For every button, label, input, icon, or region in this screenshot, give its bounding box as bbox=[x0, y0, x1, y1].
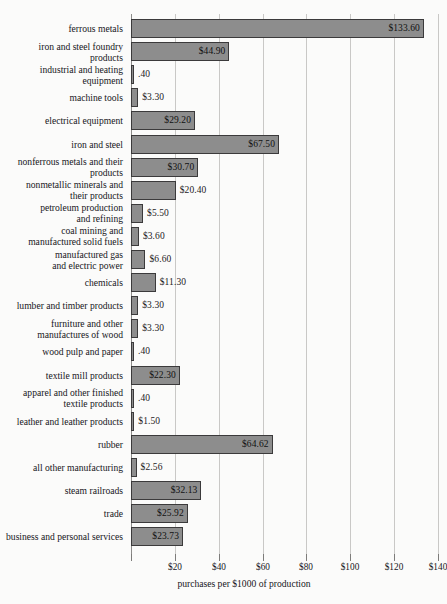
x-axis-tick-label: $140 bbox=[429, 562, 447, 572]
chart-bar-row: $44.90 bbox=[131, 42, 438, 61]
chart-bar-row: $6.60 bbox=[131, 250, 438, 269]
bar-value-label: $32.13 bbox=[131, 481, 201, 500]
bar-value-label: $5.50 bbox=[147, 204, 169, 223]
chart-bar-row: $3.30 bbox=[131, 319, 438, 338]
chart-bar-row: $67.50 bbox=[131, 135, 438, 154]
bar-value-label: $22.30 bbox=[131, 366, 180, 385]
chart-bar-row: $2.56 bbox=[131, 458, 438, 477]
bar-value-label: .40 bbox=[138, 389, 150, 408]
x-axis-tick bbox=[175, 554, 176, 561]
category-label: business and personal services bbox=[0, 531, 123, 542]
bar-value-label: .40 bbox=[138, 65, 150, 84]
bar-value-label: $133.60 bbox=[131, 19, 424, 38]
category-label: nonferrous metals and their products bbox=[0, 156, 123, 178]
bar-value-label: $1.50 bbox=[138, 412, 160, 431]
chart-bar-row: $22.30 bbox=[131, 366, 438, 385]
category-label: coal mining and manufactured solid fuels bbox=[0, 225, 123, 247]
x-axis-tick-label: $80 bbox=[299, 562, 313, 572]
bar-value-label: $44.90 bbox=[131, 42, 229, 61]
category-axis-labels: ferrous metalsiron and steel foundry pro… bbox=[0, 14, 127, 554]
chart-bar-row: $133.60 bbox=[131, 19, 438, 38]
bar-value-label: $3.30 bbox=[142, 296, 164, 315]
category-label: textile mill products bbox=[0, 370, 123, 381]
bar-value-label: $29.20 bbox=[131, 111, 195, 130]
category-label: iron and steel bbox=[0, 139, 123, 150]
chart-bar-row: .40 bbox=[131, 65, 438, 84]
category-label: wood pulp and paper bbox=[0, 346, 123, 357]
category-label: all other manufacturing bbox=[0, 462, 123, 473]
bar bbox=[131, 412, 134, 431]
bar bbox=[131, 458, 137, 477]
chart-bar-row: .40 bbox=[131, 342, 438, 361]
x-axis-tick bbox=[263, 554, 264, 561]
gridline bbox=[438, 14, 439, 554]
category-label: steam railroads bbox=[0, 485, 123, 496]
chart-bar-row: $64.62 bbox=[131, 435, 438, 454]
bar bbox=[131, 342, 134, 361]
bar-value-label: $23.73 bbox=[131, 527, 183, 546]
chart-bar-row: $25.92 bbox=[131, 504, 438, 523]
category-label: furniture and other manufactures of wood bbox=[0, 318, 123, 340]
bar bbox=[131, 273, 156, 292]
category-label: chemicals bbox=[0, 277, 123, 288]
chart-bar-row: $32.13 bbox=[131, 481, 438, 500]
category-label: industrial and heating equipment bbox=[0, 64, 123, 86]
bar bbox=[131, 296, 138, 315]
bar-value-label: $67.50 bbox=[131, 135, 279, 154]
bar-value-label: $11.30 bbox=[160, 273, 186, 292]
category-label: nonmetallic minerals and their products bbox=[0, 179, 123, 201]
category-label: apparel and other finished textile produ… bbox=[0, 387, 123, 409]
x-axis-tick-label: $60 bbox=[256, 562, 270, 572]
bar-value-label: $64.62 bbox=[131, 435, 273, 454]
category-label: machine tools bbox=[0, 92, 123, 103]
plot-area: $133.60$44.90.40$3.30$29.20$67.50$30.70$… bbox=[131, 14, 438, 554]
x-axis-tick-label: $40 bbox=[212, 562, 226, 572]
bar bbox=[131, 250, 145, 269]
chart-bar-row: $3.60 bbox=[131, 227, 438, 246]
chart-bar-row: $20.40 bbox=[131, 181, 438, 200]
chart-bar-row: $3.30 bbox=[131, 88, 438, 107]
bar-value-label: .40 bbox=[138, 342, 150, 361]
category-label: ferrous metals bbox=[0, 23, 123, 34]
x-axis-tick-label: $20 bbox=[168, 562, 182, 572]
category-label: lumber and timber products bbox=[0, 300, 123, 311]
bar bbox=[131, 389, 134, 408]
chart-bar-row: .40 bbox=[131, 389, 438, 408]
bar-rows: $133.60$44.90.40$3.30$29.20$67.50$30.70$… bbox=[131, 14, 438, 554]
x-axis-tick bbox=[306, 554, 307, 561]
bar-value-label: $20.40 bbox=[180, 181, 207, 200]
bar-value-label: $3.30 bbox=[142, 319, 164, 338]
category-label: rubber bbox=[0, 439, 123, 450]
category-label: manufactured gas and electric power bbox=[0, 249, 123, 271]
bar-value-label: $3.60 bbox=[143, 227, 165, 246]
bar-value-label: $3.30 bbox=[142, 88, 164, 107]
x-axis-tick bbox=[394, 554, 395, 561]
chart-bar-row: $30.70 bbox=[131, 158, 438, 177]
bar-value-label: $25.92 bbox=[131, 504, 188, 523]
bar bbox=[131, 65, 134, 84]
bar-value-label: $30.70 bbox=[131, 158, 198, 177]
x-axis-tick bbox=[219, 554, 220, 561]
x-axis-tick-label: $100 bbox=[341, 562, 360, 572]
chart-bar-row: $1.50 bbox=[131, 412, 438, 431]
bar bbox=[131, 181, 176, 200]
x-axis-tick bbox=[438, 554, 439, 561]
chart-bar-row: $23.73 bbox=[131, 527, 438, 546]
category-label: electrical equipment bbox=[0, 115, 123, 126]
x-axis-tick bbox=[131, 554, 132, 561]
x-axis-tick-label: $120 bbox=[385, 562, 404, 572]
bar-value-label: $2.56 bbox=[141, 458, 163, 477]
x-axis: $20$40$60$80$100$120$140 bbox=[131, 554, 438, 576]
chart-bar-row: $3.30 bbox=[131, 296, 438, 315]
bar bbox=[131, 319, 138, 338]
bar bbox=[131, 204, 143, 223]
chart-bar-row: $5.50 bbox=[131, 204, 438, 223]
category-label: iron and steel foundry products bbox=[0, 41, 123, 63]
chart-bar-row: $29.20 bbox=[131, 111, 438, 130]
x-axis-caption: purchases per $1000 of production bbox=[0, 578, 444, 589]
bar-value-label: $6.60 bbox=[149, 250, 171, 269]
category-label: trade bbox=[0, 508, 123, 519]
chart-bar-row: $11.30 bbox=[131, 273, 438, 292]
bar bbox=[131, 227, 139, 246]
